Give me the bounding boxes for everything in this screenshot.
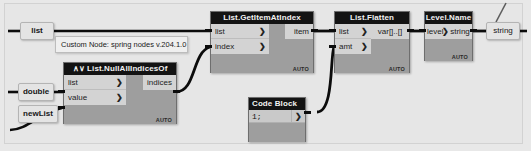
- input-node-list-label: list: [21, 23, 53, 39]
- port-out-code-block[interactable]: ❯: [291, 110, 305, 123]
- input-node-double[interactable]: double: [18, 83, 54, 101]
- node-body: list ❯ amt ❯ var[]..[] AUTO: [335, 24, 409, 73]
- lacing-badge: AUTO: [293, 66, 309, 72]
- output-ports: var[]..[]: [371, 24, 409, 39]
- output-ports: indices: [143, 75, 176, 90]
- port-in-list[interactable]: list ❯: [211, 24, 269, 39]
- port-label: indices: [147, 78, 172, 87]
- port-nub-in: [419, 29, 426, 32]
- port-label: list: [215, 27, 225, 36]
- port-out-var[interactable]: var[]..[]: [371, 24, 409, 39]
- port-in-amt[interactable]: amt ❯: [335, 39, 371, 54]
- output-node-string-label: string: [487, 23, 519, 39]
- input-node-double-label: double: [19, 84, 53, 100]
- node-body: 1; ❯: [249, 110, 305, 142]
- node-code-block[interactable]: Code Block 1; ❯: [248, 97, 306, 142]
- node-title: Code Block: [249, 98, 305, 110]
- port-label: amt: [339, 42, 352, 51]
- node-list-flatten[interactable]: List.Flatten list ❯ amt ❯ var[]..[] AUTO: [334, 11, 410, 73]
- node-title: List.Flatten: [335, 12, 409, 24]
- node-title: List.GetItemAtIndex: [211, 12, 313, 24]
- port-in-level[interactable]: level ❯: [425, 24, 450, 39]
- node-list-getitematindex[interactable]: List.GetItemAtIndex list ❯ index ❯ item …: [210, 11, 314, 73]
- dynamo-graph-canvas[interactable]: list double newList Custom Node: spring …: [0, 0, 531, 151]
- input-ports: list ❯ value ❯: [64, 75, 126, 105]
- port-nub-in: [205, 45, 212, 48]
- port-in-list[interactable]: list ❯: [335, 24, 371, 39]
- port-nub-in: [329, 29, 336, 32]
- lacing-badge: AUTO: [156, 117, 172, 123]
- port-label: list: [339, 27, 349, 36]
- port-in-index[interactable]: index ❯: [211, 39, 269, 54]
- chevron-right-icon: ❯: [361, 39, 368, 54]
- port-nub-in: [58, 106, 65, 109]
- port-out-indices[interactable]: indices: [143, 75, 176, 90]
- input-ports: list ❯ index ❯: [211, 24, 269, 54]
- node-body: list ❯ index ❯ item AUTO: [211, 24, 313, 73]
- input-node-newlist[interactable]: newList: [18, 105, 58, 123]
- port-label: var[]..[]: [378, 27, 402, 36]
- port-label: index: [215, 42, 234, 51]
- node-level-name[interactable]: Level.Name level ❯ string AUTO: [424, 11, 473, 61]
- input-node-newlist-label: newList: [19, 106, 57, 122]
- port-nub-out: [407, 29, 414, 32]
- output-ports: string: [448, 24, 472, 39]
- port-label: level: [427, 27, 443, 36]
- lacing-badge: AUTO: [389, 66, 405, 72]
- port-label: item: [294, 27, 309, 36]
- node-list-nullallindicesof[interactable]: ∧∨ List.NullAllIndicesOf list ❯ value ❯ …: [63, 62, 177, 124]
- port-nub-in: [205, 29, 212, 32]
- output-ports: item: [285, 24, 313, 39]
- port-nub-in: [58, 90, 65, 93]
- port-nub-out: [304, 111, 311, 114]
- input-ports: list ❯ amt ❯: [335, 24, 371, 54]
- port-label: string: [450, 27, 470, 36]
- port-nub-out: [470, 29, 477, 32]
- port-out-string[interactable]: string: [448, 24, 472, 39]
- chevron-right-icon: ❯: [361, 24, 368, 39]
- port-in-value[interactable]: value ❯: [64, 90, 126, 105]
- node-body: list ❯ value ❯ indices AUTO: [64, 75, 176, 124]
- port-label: list: [68, 78, 78, 87]
- chevron-right-icon: ❯: [116, 90, 123, 105]
- custom-node-note[interactable]: Custom Node: spring nodes v.204.1.0: [55, 36, 188, 53]
- node-title: Level.Name: [425, 12, 472, 24]
- port-label: value: [68, 93, 87, 102]
- node-body: level ❯ string AUTO: [425, 24, 472, 61]
- port-nub-out: [311, 29, 318, 32]
- custom-node-note-text: Custom Node: spring nodes v.204.1.0: [61, 40, 186, 49]
- code-block-editor[interactable]: 1;: [249, 110, 293, 123]
- output-node-string[interactable]: string: [486, 22, 520, 40]
- chevron-right-icon: ❯: [116, 75, 123, 90]
- port-out-item[interactable]: item: [285, 24, 313, 39]
- port-nub-in: [329, 45, 336, 48]
- input-node-list[interactable]: list: [20, 22, 54, 40]
- input-ports: level ❯: [425, 24, 450, 39]
- chevron-right-icon: ❯: [259, 39, 266, 54]
- chevron-right-icon: ❯: [259, 24, 266, 39]
- port-nub-out: [173, 90, 180, 93]
- node-title: ∧∨ List.NullAllIndicesOf: [64, 63, 176, 75]
- port-in-list[interactable]: list ❯: [64, 75, 126, 90]
- lacing-badge: AUTO: [452, 54, 468, 60]
